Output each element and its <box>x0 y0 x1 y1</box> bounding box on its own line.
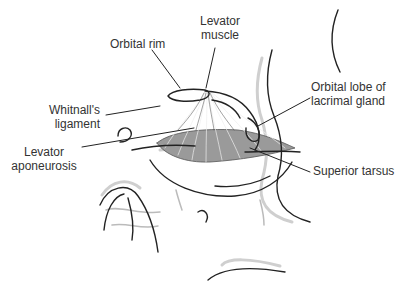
label-orbital-rim-text: Orbital rim <box>110 37 165 51</box>
label-levator-muscle-line1: Levator <box>195 14 245 28</box>
label-lacrimal-gland: Orbital lobe of lacrimal gland <box>311 80 386 108</box>
label-levator-aponeurosis: Levator aponeurosis <box>8 145 80 173</box>
label-levator-muscle: Levator muscle <box>195 14 245 42</box>
label-lacrimal-line1: Orbital lobe of <box>311 80 386 94</box>
label-aponeurosis-line2: aponeurosis <box>8 159 80 173</box>
label-superior-tarsus: Superior tarsus <box>313 164 394 178</box>
label-superior-tarsus-text: Superior tarsus <box>313 164 394 178</box>
label-whitnall-line2: ligament <box>40 117 100 131</box>
label-levator-muscle-line2: muscle <box>195 28 245 42</box>
label-lacrimal-line2: lacrimal gland <box>311 94 386 108</box>
label-orbital-rim: Orbital rim <box>110 37 165 51</box>
label-whitnalls-ligament: Whitnall's ligament <box>40 103 100 131</box>
label-whitnall-line1: Whitnall's <box>40 103 100 117</box>
label-aponeurosis-line1: Levator <box>8 145 80 159</box>
eyelid-anatomy-diagram: Orbital rim Levator muscle Whitnall's li… <box>0 0 405 295</box>
